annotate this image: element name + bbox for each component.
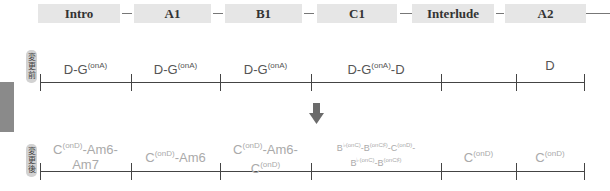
chord-before-intro: D-G(onA) <box>40 58 131 77</box>
chord-before-a1: D-G(onA) <box>131 58 220 77</box>
section-connector <box>122 13 132 14</box>
label-char: 変 <box>26 53 37 62</box>
section-connector <box>213 13 223 14</box>
chord-before-b1: D-G(onA) <box>220 58 311 77</box>
side-tab <box>0 82 14 132</box>
down-arrow-icon <box>309 103 324 125</box>
chord-after-c1: B♭(onC)-B(onC♯)-C(onD)- B♭(onC)-B(onC♯) <box>311 139 441 169</box>
section-connector <box>496 13 504 14</box>
label-char: 前 <box>26 71 37 80</box>
section-c1: C1 <box>317 4 397 23</box>
label-char: 変 <box>26 147 37 156</box>
label-char: 後 <box>26 165 37 174</box>
label-char: 更 <box>26 62 37 71</box>
section-interlude: Interlude <box>412 4 494 23</box>
label-char: 更 <box>26 156 37 165</box>
chord-after-intro: C(onD)-Am6- Am7 <box>40 138 131 172</box>
chord-before-a2: D <box>516 58 584 73</box>
chord-after-a2: C(onD) <box>516 146 584 165</box>
bar-tick <box>441 163 442 180</box>
chord-after-interlude: C(onD) <box>441 146 516 165</box>
bar-tick <box>584 74 585 91</box>
chord-after-b1: C(onD)-Am6- C(onD) <box>220 138 311 176</box>
bar-tick <box>516 74 517 91</box>
section-a1: A1 <box>134 4 211 23</box>
section-b1: B1 <box>225 4 302 23</box>
section-connector <box>586 13 610 14</box>
before-timeline <box>40 82 585 83</box>
section-intro: Intro <box>38 4 120 23</box>
bar-tick <box>516 163 517 180</box>
chord-after-a1: C(onD)-Am6 <box>131 146 220 165</box>
bar-tick <box>584 163 585 180</box>
section-connector <box>400 13 412 14</box>
before-label: 変 更 前 <box>26 50 37 83</box>
section-connector <box>304 13 314 14</box>
bar-tick <box>131 163 132 180</box>
after-label: 変 更 後 <box>26 144 37 177</box>
section-a2: A2 <box>505 4 586 23</box>
bar-tick <box>441 74 442 91</box>
chord-before-c1: D-G(onA)-D <box>311 58 441 77</box>
